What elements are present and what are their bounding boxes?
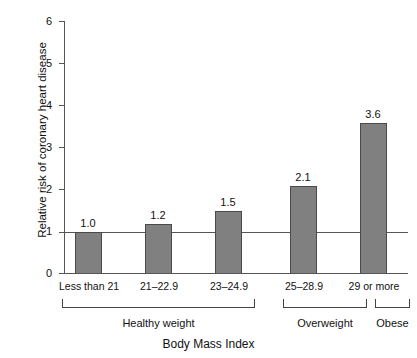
bar-value-29-or-more: 3.6 <box>351 109 395 120</box>
y-tick-label-0: 0 <box>34 268 52 279</box>
y-tick-6 <box>59 21 64 22</box>
y-tick-3 <box>59 147 64 148</box>
bar-value-21-22-9: 1.2 <box>136 210 180 221</box>
bar-21-22-9 <box>145 224 172 274</box>
group-bracket-overweight <box>283 299 367 308</box>
y-tick-2 <box>59 189 64 190</box>
x-tick-label-23-24-9: 23–24.9 <box>199 280 259 292</box>
coronary-risk-bar-chart: 6 5 4 3 2 1 0 Relative risk of coronary … <box>0 0 417 358</box>
group-bracket-healthy-weight <box>62 299 255 308</box>
group-label-obese: Obese <box>370 317 415 329</box>
group-label-overweight: Overweight <box>283 317 367 329</box>
y-axis-title: Relative risk of coronary heart disease <box>36 15 48 265</box>
x-tick-label-less-than-21: Less than 21 <box>59 280 119 292</box>
bar-value-25-28-9: 2.1 <box>281 172 325 183</box>
bar-23-24-9 <box>215 211 242 274</box>
x-tick-label-25-28-9: 25–28.9 <box>274 280 334 292</box>
bar-25-28-9 <box>290 186 317 274</box>
x-tick-label-29-or-more: 29 or more <box>344 280 404 292</box>
bar-value-less-than-21: 1.0 <box>66 218 110 229</box>
bar-less-than-21 <box>75 232 102 274</box>
x-axis-title: Body Mass Index <box>0 338 417 351</box>
y-tick-5 <box>59 63 64 64</box>
x-tick-label-21-22-9: 21–22.9 <box>129 280 189 292</box>
x-axis-line <box>59 273 408 274</box>
bar-29-or-more <box>360 123 387 274</box>
y-tick-4 <box>59 105 64 106</box>
group-bracket-obese <box>375 299 410 308</box>
y-axis-line <box>64 21 65 274</box>
bar-value-23-24-9: 1.5 <box>206 197 250 208</box>
group-label-healthy-weight: Healthy weight <box>62 317 255 329</box>
